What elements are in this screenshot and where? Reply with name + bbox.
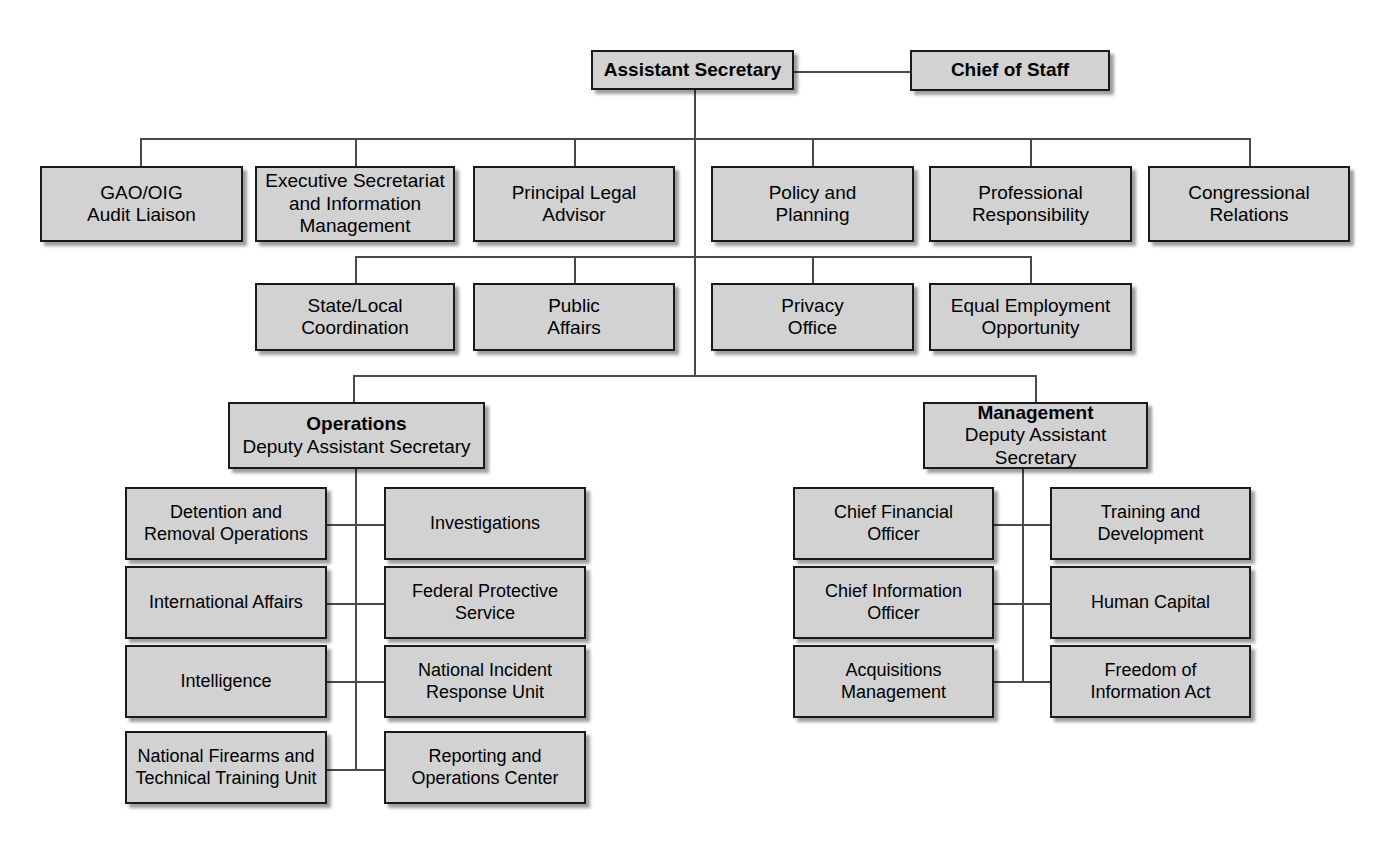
node-label: Chief of Staff bbox=[917, 59, 1103, 81]
node-label: Privacy Office bbox=[718, 295, 907, 340]
connector-operations-rung-3 bbox=[327, 681, 384, 683]
node-label: Freedom of Information Act bbox=[1057, 660, 1244, 702]
connector-tier2-drop-2 bbox=[355, 138, 357, 166]
node-executive-secretariat[interactable]: Executive Secretariat and Information Ma… bbox=[255, 166, 455, 242]
node-principal-legal-advisor[interactable]: Principal Legal Advisor bbox=[473, 166, 675, 242]
node-label: Chief Financial Officer bbox=[800, 502, 987, 544]
node-chief-of-staff[interactable]: Chief of Staff bbox=[910, 50, 1110, 91]
node-label: Training and Development bbox=[1057, 502, 1244, 544]
node-head-label: Management bbox=[977, 402, 1093, 424]
connector-tier2-drop-5 bbox=[1030, 138, 1032, 166]
node-operations-division[interactable]: Operations Deputy Assistant Secretary bbox=[228, 402, 485, 469]
node-label: Assistant Secretary bbox=[598, 59, 787, 81]
node-national-firearms-technical-training-unit[interactable]: National Firearms and Technical Training… bbox=[125, 731, 327, 804]
node-label: Detention and Removal Operations bbox=[132, 502, 320, 544]
node-label: Intelligence bbox=[132, 671, 320, 692]
connector-tier2-drop-4 bbox=[812, 138, 814, 166]
node-label: National Firearms and Technical Training… bbox=[132, 746, 320, 788]
connector-tier3-drop-1 bbox=[355, 256, 357, 283]
node-professional-responsibility[interactable]: Professional Responsibility bbox=[929, 166, 1132, 242]
connector-tier2-drop-3 bbox=[574, 138, 576, 166]
node-label: Equal Employment Opportunity bbox=[936, 295, 1125, 340]
node-label: Investigations bbox=[391, 513, 579, 534]
connector-main-spine bbox=[694, 88, 696, 376]
node-label: Executive Secretariat and Information Ma… bbox=[262, 170, 448, 237]
node-label: Policy and Planning bbox=[718, 182, 907, 227]
node-label: Reporting and Operations Center bbox=[391, 746, 579, 788]
node-equal-employment-opportunity[interactable]: Equal Employment Opportunity bbox=[929, 283, 1132, 351]
node-freedom-of-information-act[interactable]: Freedom of Information Act bbox=[1050, 645, 1251, 718]
node-state-local-coordination[interactable]: State/Local Coordination bbox=[255, 283, 455, 351]
node-management-division[interactable]: Management Deputy Assistant Secretary bbox=[923, 402, 1148, 469]
node-label: Federal Protective Service bbox=[391, 581, 579, 623]
node-privacy-office[interactable]: Privacy Office bbox=[711, 283, 914, 351]
connector-tier2-drop-1 bbox=[140, 138, 142, 166]
connector-tier2-drop-6 bbox=[1249, 138, 1251, 166]
node-human-capital[interactable]: Human Capital bbox=[1050, 566, 1251, 639]
org-chart: Assistant Secretary Chief of Staff GAO/O… bbox=[0, 0, 1395, 847]
node-sub-label: Deputy Assistant Secretary bbox=[930, 424, 1141, 469]
node-acquisitions-management[interactable]: Acquisitions Management bbox=[793, 645, 994, 718]
node-label: Public Affairs bbox=[480, 295, 668, 340]
node-label: Human Capital bbox=[1057, 592, 1244, 613]
connector-assistant-secretary-chief-of-staff bbox=[793, 71, 911, 73]
connector-operations-rung-4 bbox=[327, 769, 384, 771]
node-sub-label: Deputy Assistant Secretary bbox=[242, 436, 470, 458]
node-label: National Incident Response Unit bbox=[391, 660, 579, 702]
node-label: GAO/OIG Audit Liaison bbox=[47, 182, 236, 227]
node-label: Professional Responsibility bbox=[936, 182, 1125, 227]
connector-operations-rung-2 bbox=[327, 603, 384, 605]
node-label: Congressional Relations bbox=[1155, 182, 1343, 227]
connector-tier3-bus bbox=[355, 256, 1031, 258]
connector-management-rung-1 bbox=[994, 524, 1050, 526]
node-investigations[interactable]: Investigations bbox=[384, 487, 586, 560]
node-public-affairs[interactable]: Public Affairs bbox=[473, 283, 675, 351]
node-reporting-and-operations-center[interactable]: Reporting and Operations Center bbox=[384, 731, 586, 804]
node-international-affairs[interactable]: International Affairs bbox=[125, 566, 327, 639]
connector-division-bus bbox=[353, 375, 1037, 377]
node-national-incident-response-unit[interactable]: National Incident Response Unit bbox=[384, 645, 586, 718]
connector-management-spine bbox=[1022, 469, 1024, 682]
connector-division-drop-operations bbox=[353, 375, 355, 402]
connector-tier3-drop-4 bbox=[1030, 256, 1032, 283]
node-chief-financial-officer[interactable]: Chief Financial Officer bbox=[793, 487, 994, 560]
connector-operations-rung-1 bbox=[327, 524, 384, 526]
node-detention-and-removal-operations[interactable]: Detention and Removal Operations bbox=[125, 487, 327, 560]
node-intelligence[interactable]: Intelligence bbox=[125, 645, 327, 718]
node-label: State/Local Coordination bbox=[262, 295, 448, 340]
node-federal-protective-service[interactable]: Federal Protective Service bbox=[384, 566, 586, 639]
connector-division-drop-management bbox=[1035, 375, 1037, 402]
node-label: Chief Information Officer bbox=[800, 581, 987, 623]
node-policy-and-planning[interactable]: Policy and Planning bbox=[711, 166, 914, 242]
connector-management-rung-3 bbox=[994, 681, 1050, 683]
node-label: Acquisitions Management bbox=[800, 660, 987, 702]
node-chief-information-officer[interactable]: Chief Information Officer bbox=[793, 566, 994, 639]
connector-management-rung-2 bbox=[994, 603, 1050, 605]
node-head-label: Operations bbox=[306, 413, 406, 435]
node-gao-oig-audit-liaison[interactable]: GAO/OIG Audit Liaison bbox=[40, 166, 243, 242]
node-label: Principal Legal Advisor bbox=[480, 182, 668, 227]
connector-tier2-bus bbox=[140, 138, 1250, 140]
node-label: International Affairs bbox=[132, 592, 320, 613]
node-training-and-development[interactable]: Training and Development bbox=[1050, 487, 1251, 560]
node-assistant-secretary[interactable]: Assistant Secretary bbox=[591, 50, 794, 90]
connector-tier3-drop-2 bbox=[574, 256, 576, 283]
node-congressional-relations[interactable]: Congressional Relations bbox=[1148, 166, 1350, 242]
connector-tier3-drop-3 bbox=[812, 256, 814, 283]
connector-operations-spine bbox=[355, 469, 357, 771]
